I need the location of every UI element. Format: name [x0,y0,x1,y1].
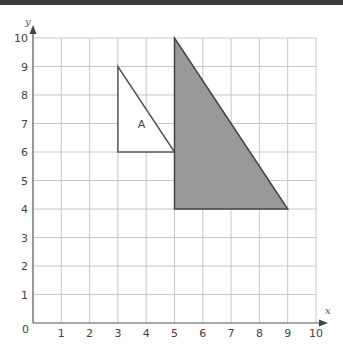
x-tick-label: 2 [86,327,93,340]
x-tick-label: 10 [309,327,323,340]
y-tick-label: 3 [21,232,28,245]
y-tick-label: 6 [21,146,28,159]
x-tick-label: 7 [228,327,235,340]
x-tick-label: 1 [58,327,65,340]
y-axis-label: y [24,16,31,27]
y-tick-label: 4 [21,203,28,216]
origin-label: 0 [22,323,29,336]
y-tick-label: 10 [14,32,28,45]
coordinate-grid: A 1234567891012345678910 x y 0 [0,0,343,358]
x-tick-label: 3 [114,327,121,340]
x-tick-label: 4 [143,327,150,340]
shape-label-A: A [138,118,146,131]
x-tick-label: 8 [256,327,263,340]
y-tick-label: 5 [21,175,28,188]
y-tick-label: 7 [21,118,28,131]
y-tick-label: 2 [21,260,28,273]
y-tick-label: 9 [21,61,28,74]
x-tick-label: 6 [199,327,206,340]
tick-labels: 1234567891012345678910 [14,32,323,340]
x-tick-label: 5 [171,327,178,340]
x-axis-label: x [325,305,331,316]
x-tick-label: 9 [284,327,291,340]
y-tick-label: 1 [21,289,28,302]
y-tick-label: 8 [21,89,28,102]
x-axis-arrow-icon [319,320,328,327]
